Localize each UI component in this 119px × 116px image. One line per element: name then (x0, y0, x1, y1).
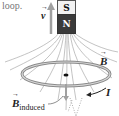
velocity-label: v (41, 10, 45, 21)
magnet-s-pole: S (57, 0, 76, 14)
current-label: I (106, 86, 110, 98)
induced-field-symbol: B (12, 97, 19, 109)
velocity-arrow-icon (47, 2, 55, 34)
loop-center-dot (64, 74, 69, 77)
leader-line (48, 96, 63, 104)
magnet-n-pole: N (57, 14, 76, 34)
induced-field-label: Binduced (12, 97, 45, 112)
bar-magnet: S N (57, 0, 76, 34)
field-label: B (100, 55, 107, 67)
induced-field-dotted-lines (68, 98, 82, 116)
induced-subscript: induced (19, 103, 44, 112)
current-arrow-icon (86, 88, 106, 97)
